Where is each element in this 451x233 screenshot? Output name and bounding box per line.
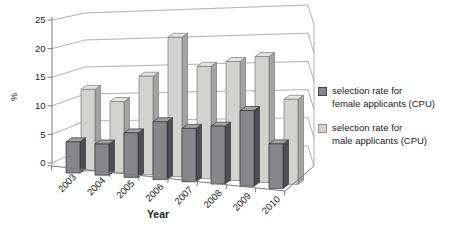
bar-female-2005-side [138,129,144,178]
gridline-sidewall-0 [308,146,314,166]
bar-female-2005 [124,133,138,178]
gridline-sidewall-5 [308,118,314,138]
x-tick-label-2004: 2004 [85,175,108,198]
bar-female-2008 [211,126,225,184]
gridline-left-25 [52,13,85,20]
gridline-sidewall-25 [308,5,314,25]
legend-swatch-female [318,87,327,96]
y-tick-label-5: 5 [40,129,45,140]
chart-figure: 0510152025200320042005200620072008200920… [0,0,451,233]
legend-label-female-line1: selection rate for [332,84,435,97]
bars [66,33,304,188]
x-tick-6 [226,185,227,190]
y-tick-label-10: 10 [35,100,46,111]
bar-female-2006 [153,122,167,180]
legend-entry-female: selection rate for female applicants (CP… [318,84,450,110]
gridline-back-20 [85,33,308,40]
bar-female-2010-side [283,140,289,189]
legend-label-male-line2: male applicants (CPU) [332,134,427,147]
gridline-sidewall-10 [308,90,314,110]
legend-label-male-line1: selection rate for [332,121,427,134]
y-tick-label-20: 20 [35,43,46,54]
bar-female-2009-side [254,107,260,187]
legend-label-female-line2: female applicants (CPU) [332,97,435,110]
gridline-left-10 [52,94,85,106]
gridline-left-20 [52,40,85,49]
y-axis-title: % [8,92,19,101]
x-tick-label-2010: 2010 [259,193,282,216]
gridline-sidewall-15 [308,61,314,81]
x-tick-5 [197,182,198,187]
gridline-left-15 [52,67,85,77]
bar-male-2010-side [298,95,304,184]
legend-entry-male: selection rate for male applicants (CPU) [318,121,450,147]
bar-female-2004-side [109,140,115,175]
bar-female-2007 [182,128,196,181]
bar-female-2006-side [167,118,173,180]
x-axis-title: Year [147,208,169,220]
bar-female-2003-side [80,138,86,173]
x-tick-label-2007: 2007 [172,184,195,207]
x-tick-0 [51,166,52,171]
bar-female-2008-side [225,122,231,184]
legend: selection rate for female applicants (CP… [318,84,450,158]
x-tick-label-2009: 2009 [230,190,253,213]
bar-female-2007-side [196,124,202,181]
x-tick-label-2008: 2008 [201,187,224,210]
gridline-left-5 [52,121,85,134]
y-tick-label-25: 25 [35,14,46,25]
x-tick-8 [284,191,285,196]
x-tick-label-2003: 2003 [56,171,79,194]
legend-label-male: selection rate for male applicants (CPU) [332,121,427,147]
bar-female-2010 [269,144,283,189]
gridline-back-25 [85,5,308,13]
x-tick-label-2006: 2006 [143,181,166,204]
bar-female-2009 [240,111,254,187]
y-tick-label-0: 0 [40,157,45,168]
gridline-sidewall-20 [308,33,314,53]
x-tick-7 [255,188,256,193]
legend-swatch-male [318,124,327,133]
y-tick-label-15: 15 [35,71,46,82]
legend-label-female: selection rate for female applicants (CP… [332,84,435,110]
x-tick-label-2005: 2005 [114,178,137,201]
